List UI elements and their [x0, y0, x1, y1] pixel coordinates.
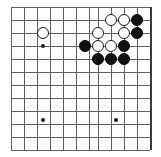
grid-line-vertical-1 — [24, 7, 25, 150]
hoshi-lower-left — [41, 118, 45, 122]
black-stone-r1-c3 — [131, 14, 143, 26]
black-stone-r4-c3 — [118, 53, 130, 65]
grid-line-horizontal-7 — [11, 98, 150, 99]
white-stone-r2-c1 — [92, 27, 104, 39]
go-board-surface — [0, 0, 161, 157]
grid-line-horizontal-8 — [11, 111, 150, 112]
grid-line-vertical-5 — [76, 7, 77, 150]
grid-line-horizontal-10 — [11, 137, 150, 138]
grid-line-vertical-3 — [50, 7, 51, 150]
white-stone-lone — [37, 27, 49, 39]
grid-line-horizontal-6 — [11, 85, 150, 86]
grid-line-horizontal-11 — [11, 150, 150, 151]
black-stone-r4-c2 — [105, 53, 117, 65]
grid-line-vertical-0 — [11, 7, 12, 150]
black-stone-r3-c3 — [118, 40, 130, 52]
white-stone-r2-c2 — [118, 27, 130, 39]
grid-line-horizontal-0 — [11, 7, 150, 8]
grid-line-horizontal-5 — [11, 72, 150, 73]
white-stone-r3-c1 — [92, 40, 104, 52]
black-stone-r3-c0 — [79, 40, 91, 52]
grid-line-vertical-4 — [63, 7, 64, 150]
black-stone-r2-c3 — [131, 27, 143, 39]
grid-line-vertical-8 — [111, 7, 112, 150]
black-stone-r4-c1 — [92, 53, 104, 65]
board-right-edge — [150, 7, 152, 150]
white-stone-r1-c1 — [105, 14, 117, 26]
white-stone-r3-c2 — [105, 40, 117, 52]
grid-line-horizontal-9 — [11, 124, 150, 125]
white-stone-r1-c2 — [118, 14, 130, 26]
hoshi-lower-right — [114, 118, 118, 122]
grid-line-vertical-6 — [89, 7, 90, 150]
hoshi-upper-left — [41, 44, 45, 48]
go-board-diagram — [0, 0, 161, 157]
